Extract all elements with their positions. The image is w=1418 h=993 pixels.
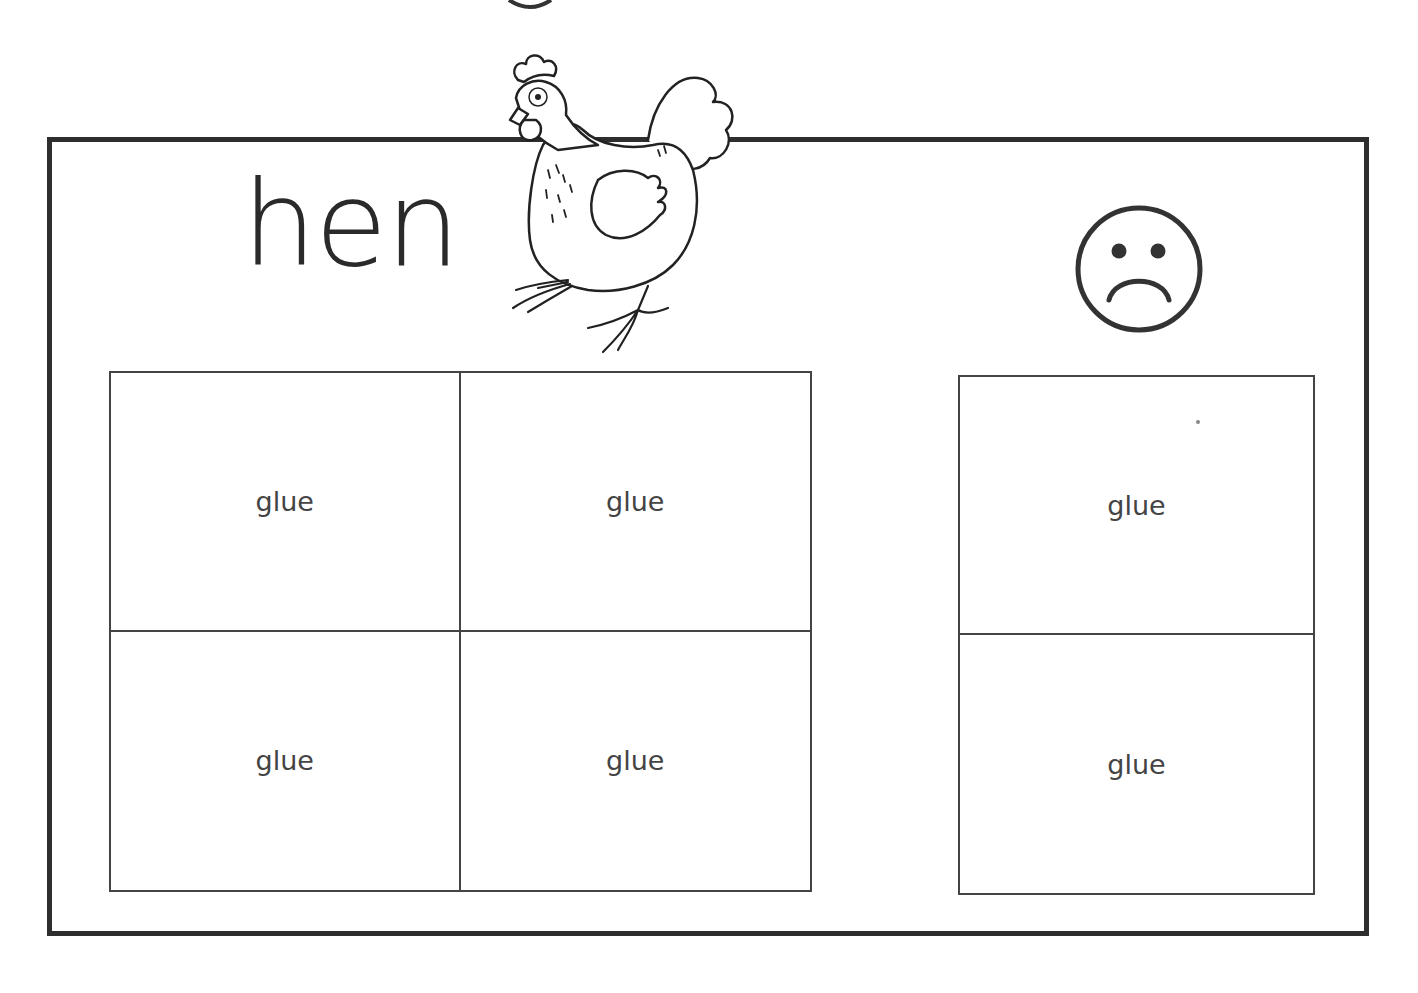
glue-cell[interactable]: glue	[111, 632, 461, 891]
glue-cell[interactable]: glue	[461, 373, 811, 632]
scan-speck	[1196, 420, 1200, 424]
sad-face-icon	[1073, 203, 1205, 335]
partial-circle-icon	[505, 0, 555, 12]
title-word: hen	[242, 165, 458, 283]
sort-grid-not-hen: glue glue	[958, 375, 1315, 895]
glue-cell[interactable]: glue	[960, 377, 1313, 635]
sort-grid-hen: glue glue glue glue	[109, 371, 812, 892]
glue-cell[interactable]: glue	[960, 635, 1313, 893]
glue-cell[interactable]: glue	[111, 373, 461, 632]
hen-icon	[488, 50, 740, 356]
glue-cell[interactable]: glue	[461, 632, 811, 891]
